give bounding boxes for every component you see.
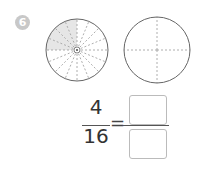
given-numerator: 4 bbox=[82, 95, 110, 119]
right-circle-4-parts bbox=[124, 17, 190, 83]
divider-line bbox=[48, 50, 77, 62]
divider-line bbox=[65, 50, 77, 79]
divider-line bbox=[77, 50, 89, 79]
left-circle-16-parts bbox=[46, 19, 108, 81]
answer-numerator-box[interactable] bbox=[129, 95, 167, 125]
divider-line bbox=[77, 21, 89, 50]
answer-fraction-bar bbox=[123, 125, 169, 126]
divider-line bbox=[77, 50, 106, 62]
answer-denominator-box[interactable] bbox=[129, 129, 167, 159]
fraction-circles bbox=[0, 0, 202, 95]
given-denominator: 16 bbox=[82, 124, 110, 148]
equals-sign: = bbox=[110, 112, 125, 133]
divider-line bbox=[77, 38, 106, 50]
divider-line bbox=[55, 50, 77, 72]
divider-line bbox=[77, 50, 99, 72]
divider-line bbox=[77, 28, 99, 50]
center-dot bbox=[76, 49, 78, 51]
fraction-equation: 4 16 = bbox=[70, 95, 165, 170]
